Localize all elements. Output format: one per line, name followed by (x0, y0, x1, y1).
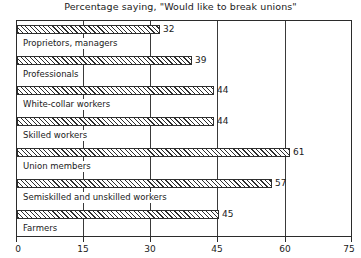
bar-value-farmers: 45 (222, 210, 233, 219)
bar-value-union-members: 61 (293, 148, 304, 157)
category-label-farmers: Farmers (22, 223, 59, 234)
bar-proprietors-managers (17, 25, 160, 34)
bar-union-members (17, 148, 290, 157)
category-label-union-members: Union members (22, 161, 93, 172)
category-label-proprietors-managers: Proprietors, managers (22, 38, 119, 49)
bar-value-white-collar-workers: 44 (217, 86, 228, 95)
bar-farmers (17, 210, 219, 219)
x-tick-label-60: 60 (279, 244, 290, 254)
bar-white-collar-workers (17, 86, 214, 95)
category-label-semiskilled-unskilled-workers: Semiskilled and unskilled workers (22, 192, 169, 203)
plot-area (16, 20, 352, 237)
gridline-30 (150, 21, 151, 236)
bar-professionals (17, 56, 192, 65)
bar-value-semiskilled-unskilled-workers: 57 (275, 179, 286, 188)
bar-value-professionals: 39 (195, 56, 206, 65)
bar-chart: Percentage saying, "Would like to break … (0, 0, 361, 258)
x-tick-label-45: 45 (211, 244, 222, 254)
bar-value-skilled-workers: 44 (217, 117, 228, 126)
x-tick-15 (83, 237, 84, 242)
x-tick-label-75: 75 (343, 244, 354, 254)
x-tick-30 (150, 237, 151, 242)
bar-semiskilled-unskilled-workers (17, 179, 272, 188)
category-label-white-collar-workers: White-collar workers (22, 99, 112, 110)
gridline-60 (285, 21, 286, 236)
bar-value-proprietors-managers: 32 (163, 25, 174, 34)
x-tick-label-0: 0 (15, 244, 21, 254)
gridline-15 (83, 21, 84, 236)
gridline-45 (217, 21, 218, 236)
x-tick-45 (217, 237, 218, 242)
x-tick-60 (285, 237, 286, 242)
x-tick-75 (351, 237, 352, 242)
x-tick-label-30: 30 (144, 244, 155, 254)
category-label-professionals: Professionals (22, 69, 81, 80)
category-label-skilled-workers: Skilled workers (22, 130, 89, 141)
x-tick-label-15: 15 (77, 244, 88, 254)
bar-skilled-workers (17, 117, 214, 126)
x-tick-0 (16, 237, 17, 242)
chart-title: Percentage saying, "Would like to break … (0, 1, 361, 12)
